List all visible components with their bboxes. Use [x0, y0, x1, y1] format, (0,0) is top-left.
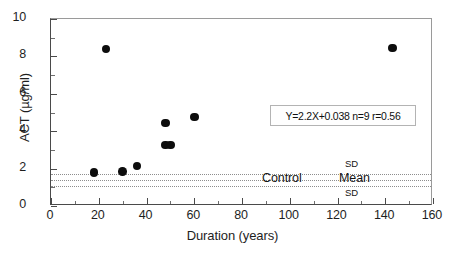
y-axis-tick-label: 8	[0, 47, 26, 61]
y-axis-tick	[51, 206, 57, 207]
sd-lower-label: SD	[345, 187, 358, 198]
y-axis-minor-tick	[51, 187, 55, 188]
regression-stats-box: Y=2.2X+0.038 n=9 r=0.56	[270, 105, 416, 126]
data-point	[190, 113, 199, 122]
y-axis-minor-tick	[51, 75, 55, 76]
x-axis-minor-tick	[123, 201, 124, 205]
data-point	[133, 162, 142, 171]
x-axis-minor-tick	[314, 201, 315, 205]
x-axis-tick	[433, 198, 434, 204]
x-axis-minor-tick	[361, 201, 362, 205]
data-point	[118, 167, 127, 176]
control-band-label: Control	[262, 171, 302, 185]
y-axis-tick-label: 6	[0, 85, 26, 99]
x-axis-tick	[290, 198, 291, 204]
y-axis-minor-tick	[51, 150, 55, 151]
y-axis-tick-label: 2	[0, 160, 26, 174]
x-axis-tick-label: 140	[364, 208, 404, 222]
sd-upper-label: SD	[345, 158, 358, 169]
y-axis-tick	[51, 131, 57, 132]
x-axis-title: Duration (years)	[0, 228, 465, 243]
x-axis-tick-label: 0	[30, 208, 70, 222]
data-point	[388, 44, 397, 53]
y-axis-tick-label: 4	[0, 122, 26, 136]
data-point	[102, 45, 111, 54]
x-axis-tick-label: 120	[317, 208, 357, 222]
y-axis-minor-tick	[51, 38, 55, 39]
y-axis-tick	[51, 56, 57, 57]
x-axis-tick-label: 100	[269, 208, 309, 222]
x-axis-tick	[338, 198, 339, 204]
x-axis-minor-tick	[218, 201, 219, 205]
y-axis-tick-label: 0	[0, 197, 26, 211]
x-axis-tick-label: 40	[126, 208, 166, 222]
x-axis-tick	[51, 198, 52, 204]
y-axis-minor-tick	[51, 113, 55, 114]
y-axis-tick	[51, 94, 57, 95]
scatter-plot-figure: ACT (µg/ml) Duration (years) 02468100204…	[0, 0, 465, 263]
x-axis-minor-tick	[75, 201, 76, 205]
x-axis-tick	[99, 198, 100, 204]
mean-line-label: Mean	[339, 171, 370, 185]
y-axis-tick-label: 10	[0, 10, 26, 24]
data-point	[166, 141, 175, 150]
control-reference-line	[51, 174, 431, 175]
x-axis-minor-tick	[170, 201, 171, 205]
control-reference-line	[51, 180, 431, 181]
y-axis-tick	[51, 19, 57, 20]
x-axis-tick-label: 160	[412, 208, 452, 222]
data-point	[90, 168, 99, 177]
x-axis-tick	[194, 198, 195, 204]
data-point	[161, 119, 170, 128]
x-axis-minor-tick	[409, 201, 410, 205]
x-axis-minor-tick	[266, 201, 267, 205]
x-axis-tick-label: 20	[78, 208, 118, 222]
x-axis-tick	[242, 198, 243, 204]
x-axis-tick-label: 60	[173, 208, 213, 222]
regression-stats-text: Y=2.2X+0.038 n=9 r=0.56	[285, 110, 400, 122]
x-axis-tick	[385, 198, 386, 204]
x-axis-tick	[147, 198, 148, 204]
control-reference-line	[51, 186, 431, 187]
y-axis-tick	[51, 169, 57, 170]
x-axis-tick-label: 80	[221, 208, 261, 222]
